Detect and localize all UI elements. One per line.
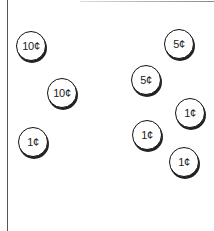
coin-nickel-2: 5¢ [131, 65, 161, 95]
coin-label: 1¢ [141, 129, 153, 141]
coin-label: 10¢ [22, 40, 39, 52]
coin-penny-2: 1¢ [175, 98, 205, 128]
coin-nickel-1: 5¢ [164, 29, 194, 59]
coin-label: 1¢ [27, 136, 39, 148]
coin-penny-1: 1¢ [18, 127, 48, 157]
coin-penny-4: 1¢ [169, 147, 199, 177]
coin-label: 5¢ [140, 74, 152, 86]
left-border-line [7, 0, 8, 231]
coin-dime-2: 10¢ [47, 78, 77, 108]
coin-label: 10¢ [53, 87, 70, 99]
coin-dime-1: 10¢ [16, 31, 46, 61]
top-border-line [80, 1, 214, 2]
coin-label: 1¢ [184, 107, 196, 119]
coin-label: 1¢ [178, 156, 190, 168]
coin-label: 5¢ [173, 38, 185, 50]
coin-penny-3: 1¢ [132, 120, 162, 150]
